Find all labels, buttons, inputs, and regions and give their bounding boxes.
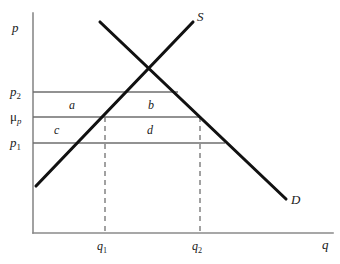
region-label-b: b xyxy=(148,99,154,111)
region-label-a: a xyxy=(69,99,75,111)
price-label-p1: p1 xyxy=(10,136,21,152)
quantity-label-q1: q1 xyxy=(97,240,107,255)
x-axis-label: q xyxy=(322,238,329,251)
supply-demand-figure: p q S D p2 μp p1 q1 q2 a b c d xyxy=(0,0,340,264)
price-label-mu-p-sub: p xyxy=(17,116,21,126)
demand-curve xyxy=(100,22,286,199)
price-label-mu-p-main: μ xyxy=(10,109,17,124)
demand-curve-label: D xyxy=(291,193,300,206)
chart-canvas xyxy=(0,0,340,264)
price-label-p2-sub: 2 xyxy=(17,91,21,101)
supply-curve-label: S xyxy=(197,10,204,23)
price-label-p1-sub: 1 xyxy=(17,142,21,152)
price-label-mu-p: μp xyxy=(10,110,21,125)
region-label-d: d xyxy=(147,124,153,136)
quantity-label-q2-sub: 2 xyxy=(198,246,202,255)
region-label-c: c xyxy=(54,124,59,136)
quantity-label-q2: q2 xyxy=(192,240,202,255)
quantity-label-q1-sub: 1 xyxy=(103,246,107,255)
supply-curve xyxy=(36,22,193,186)
price-label-p2: p2 xyxy=(10,85,21,101)
y-axis-label: p xyxy=(12,21,19,34)
